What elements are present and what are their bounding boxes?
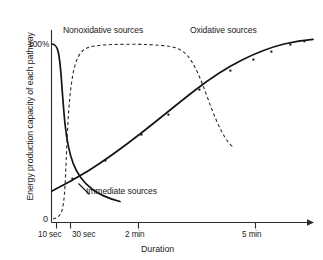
series-label-oxidative: Oxidative sources	[190, 26, 257, 35]
y-tick-label-0: 0	[43, 215, 48, 224]
data-point-marker	[252, 59, 254, 61]
data-point-marker	[270, 51, 272, 53]
series-label-immediate: Immediate sources	[86, 187, 157, 196]
data-point-marker	[71, 178, 73, 180]
data-point-marker	[104, 160, 106, 162]
data-point-marker	[167, 114, 169, 116]
data-point-marker	[140, 134, 142, 136]
y-tick-label-100: 100%	[28, 40, 49, 48]
chart-figure: Energy production capacity of each pathw…	[0, 0, 323, 260]
x-axis-arrow-icon	[307, 219, 314, 225]
data-point-marker	[303, 40, 305, 42]
data-point-marker	[289, 44, 291, 46]
curve-oxidative-sources	[52, 39, 313, 191]
x-tick-label-2min: 2 min	[125, 231, 145, 239]
x-tick-label-30sec: 30 sec	[72, 231, 96, 239]
data-point-marker	[229, 70, 231, 72]
x-tick-label-5min: 5 min	[242, 231, 262, 239]
curve-immediate-sources	[52, 44, 120, 202]
x-axis-title: Duration	[141, 245, 174, 254]
data-point-marker	[198, 89, 200, 91]
x-tick-label-10sec: 10 sec	[38, 231, 62, 239]
series-label-nonoxidative: Nonoxidative sources	[63, 26, 143, 35]
